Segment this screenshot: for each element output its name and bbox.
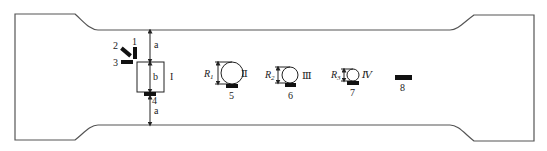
sensor-2-label: 2 xyxy=(113,40,118,51)
sensor-3 xyxy=(121,60,133,64)
dimension-a-top-label: a xyxy=(154,39,159,50)
defect-circle-iii xyxy=(282,67,298,83)
defect-circle-ii xyxy=(221,62,243,84)
sensor-1-label: 1 xyxy=(132,36,137,47)
sensor-5 xyxy=(226,84,238,88)
defect-ii-label: Ⅱ xyxy=(241,68,248,79)
sensor-5-label: 5 xyxy=(229,90,234,101)
sensor-8 xyxy=(395,75,412,80)
sensor-4-label: 4 xyxy=(152,95,157,106)
sensor-6-label: 6 xyxy=(288,90,293,101)
r2-label: R2 xyxy=(264,69,275,82)
sensor-2 xyxy=(120,47,132,58)
dimension-a-bottom-label: a xyxy=(154,105,159,116)
specimen-diagram: a b I a 1 2 3 4 R1 5 Ⅱ R2 6 Ⅲ R3 7 Ⅳ 8 xyxy=(0,0,547,151)
sensor-8-label: 8 xyxy=(400,82,405,93)
defect-iv-label: Ⅳ xyxy=(361,69,373,80)
sensor-6 xyxy=(285,83,296,87)
defect-circle-iv xyxy=(347,69,359,81)
r1-label: R1 xyxy=(203,68,214,81)
dimension-b-label: b xyxy=(153,71,158,82)
defect-iii-label: Ⅲ xyxy=(302,70,312,81)
r3-label: R3 xyxy=(330,69,341,82)
sensor-7-label: 7 xyxy=(350,87,355,98)
sensor-3-label: 3 xyxy=(113,57,118,68)
defect-i-label: I xyxy=(170,71,173,82)
sensor-1 xyxy=(133,47,137,59)
sensor-7 xyxy=(347,81,359,85)
